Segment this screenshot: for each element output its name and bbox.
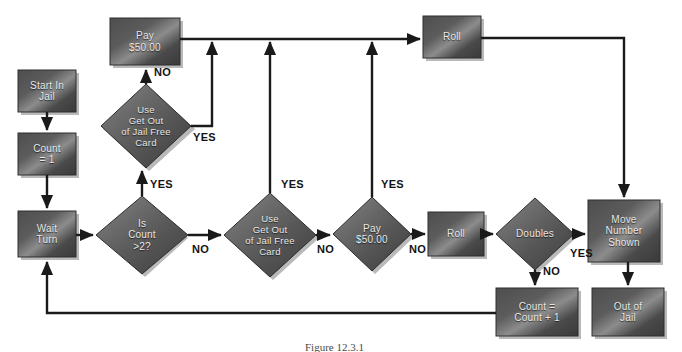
figure-caption: Figure 12.3.1	[305, 341, 364, 352]
use-card-mid-shape	[224, 193, 316, 277]
edge-label-no-use-card-top: NO	[154, 66, 171, 78]
edge-label-yes-doubles: YES	[570, 247, 593, 259]
edge-roll-top-to-move	[481, 38, 624, 197]
out-of-jail-shape	[592, 288, 664, 336]
wait-turn-shape	[18, 211, 76, 257]
edge-label-no-use-card-mid: NO	[317, 243, 334, 255]
pay-50-mid-shape	[333, 197, 411, 271]
edge-label-yes-is-count: YES	[150, 178, 173, 190]
roll-mid-shape	[428, 212, 484, 256]
count-equals-1-shape	[18, 133, 76, 175]
node-shapes	[18, 16, 667, 339]
edge-label-yes-pay-mid: YES	[381, 178, 404, 190]
count-plus-1-shape	[496, 288, 578, 336]
use-card-top-shape	[101, 84, 191, 168]
edge-label-yes-use-card-mid: YES	[281, 178, 304, 190]
flow-connectors	[47, 38, 628, 313]
start-in-jail-shape	[18, 70, 76, 112]
edge-label-no-pay-mid: NO	[409, 243, 426, 255]
edge-use-top-yes	[191, 42, 212, 126]
move-number-shown-shape	[588, 200, 660, 262]
edge-label-yes-use-card-top: YES	[193, 131, 216, 143]
edge-label-no-doubles: NO	[543, 265, 560, 277]
pay-50-top-shape	[110, 18, 180, 65]
flowchart-figure: Start In Jail Count = 1 Wait Turn Pay $5…	[0, 0, 682, 352]
is-count-gt2-shape	[96, 196, 188, 274]
roll-top-shape	[423, 16, 481, 58]
doubles-shape	[496, 198, 574, 270]
edge-label-no-is-count: NO	[192, 243, 209, 255]
flowchart-canvas	[0, 0, 682, 352]
